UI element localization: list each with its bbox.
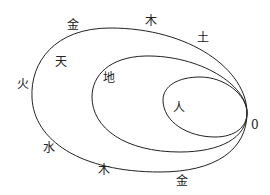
label-tu: 土 (197, 32, 209, 44)
label-jin-bottom: 金 (176, 175, 188, 187)
label-tian: 天 (55, 56, 67, 68)
label-ren: 人 (173, 102, 185, 114)
outer-ellipse-tian (32, 28, 247, 172)
label-mu-top: 木 (145, 15, 157, 27)
nested-ellipse-diagram: 金 木 土 天 火 地 人 0 水 木 金 (0, 0, 270, 195)
label-shui: 水 (43, 142, 55, 154)
label-jin-top: 金 (67, 19, 79, 31)
label-mu-bottom: 木 (98, 164, 110, 176)
middle-ellipse-di (92, 56, 247, 152)
label-zero: 0 (251, 119, 259, 131)
ellipses (0, 0, 270, 195)
label-di: 地 (103, 72, 115, 84)
label-huo: 火 (17, 78, 29, 90)
